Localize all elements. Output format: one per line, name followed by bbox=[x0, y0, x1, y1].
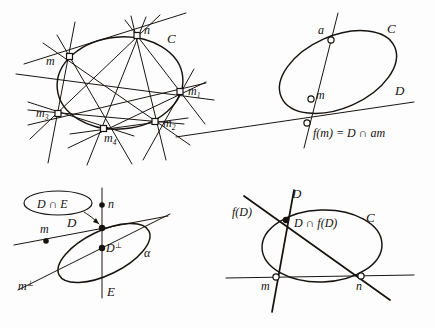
point-m1-marker bbox=[177, 89, 183, 95]
point-m3-marker bbox=[55, 111, 61, 117]
figure-1-top-left: m n C m1 m2 m3 m4 bbox=[0, 0, 218, 170]
label-f-of-D: f(D) bbox=[232, 205, 252, 219]
label-line-D: D bbox=[66, 215, 77, 230]
line-m1-m2 bbox=[143, 69, 194, 160]
label-m2: m2 bbox=[163, 116, 176, 132]
label-callout-text: D ∩ E bbox=[36, 197, 68, 211]
line-mn bbox=[226, 275, 414, 278]
label-alpha: α bbox=[144, 246, 151, 260]
figure-3-canvas: D ∩ E n D m D⊥ α m⊥ E bbox=[0, 170, 218, 328]
label-conic-C: C bbox=[366, 210, 375, 225]
point-m-marker bbox=[43, 238, 49, 244]
label-a: a bbox=[318, 23, 324, 37]
label-n: n bbox=[356, 279, 362, 293]
label-m-perp: m⊥ bbox=[18, 279, 34, 293]
point-m-marker bbox=[67, 54, 73, 60]
figure-4-canvas: f(D) D D ∩ f(D) C m n bbox=[218, 170, 435, 328]
figure-1-canvas: m n C m1 m2 m3 m4 bbox=[0, 0, 218, 170]
figure-2-canvas: a m C D f(m) = D ∩ am bbox=[218, 0, 435, 170]
label-m: m bbox=[46, 54, 55, 68]
line-D bbox=[272, 190, 294, 312]
line-D bbox=[14, 216, 168, 245]
point-a-marker bbox=[328, 37, 334, 43]
figure-2-top-right: a m C D f(m) = D ∩ am bbox=[218, 0, 435, 170]
point-m2-marker bbox=[152, 119, 158, 125]
label-m: m bbox=[261, 279, 270, 293]
label-D-perp: D⊥ bbox=[105, 241, 122, 255]
point-m-marker bbox=[308, 96, 314, 102]
label-m1: m1 bbox=[188, 84, 200, 100]
point-n-marker bbox=[134, 33, 140, 39]
point-fm-marker bbox=[304, 120, 310, 126]
label-conic-C: C bbox=[387, 21, 396, 36]
label-n: n bbox=[144, 23, 150, 37]
label-line-D: D bbox=[291, 186, 302, 201]
point-D-perp-marker bbox=[99, 245, 105, 251]
point-m-marker bbox=[273, 274, 279, 280]
point-D-cap-fD-marker bbox=[283, 217, 289, 223]
label-n: n bbox=[108, 197, 114, 211]
label-line-E: E bbox=[106, 284, 115, 299]
point-n-marker bbox=[99, 202, 105, 208]
point-D-cap-E-marker bbox=[99, 225, 105, 231]
label-conic-C: C bbox=[167, 31, 176, 46]
figure-sheet: m n C m1 m2 m3 m4 a m C D f(m) bbox=[0, 0, 435, 328]
label-intersection: D ∩ f(D) bbox=[293, 216, 337, 230]
label-equation: f(m) = D ∩ am bbox=[313, 126, 385, 140]
label-m: m bbox=[316, 88, 325, 102]
figure-4-bottom-right: f(D) D D ∩ f(D) C m n bbox=[218, 170, 435, 328]
figure-3-bottom-left: D ∩ E n D m D⊥ α m⊥ E bbox=[0, 170, 218, 328]
line-n-m4 bbox=[87, 17, 146, 165]
conic-alpha bbox=[49, 211, 158, 294]
label-m: m bbox=[40, 222, 49, 236]
label-line-D: D bbox=[394, 83, 405, 98]
